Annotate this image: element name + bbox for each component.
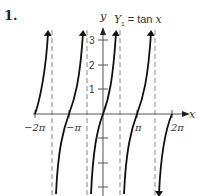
y-axis-label: y	[99, 10, 107, 23]
x-tick-label-pi: π	[134, 122, 142, 133]
y-tick-label-3: 3	[89, 35, 95, 46]
y-tick-label-2: 2	[89, 60, 95, 71]
x-tick-label-neg-pi: −π	[66, 122, 81, 133]
x-tick-label-neg-2pi: −2π	[24, 122, 46, 133]
x-axis-label: x	[189, 108, 196, 121]
function-label: Y1 = tan x	[114, 13, 163, 27]
y-tick-label-1: 1	[89, 84, 95, 95]
branch-1	[35, 33, 48, 114]
x-tick-label-2pi: 2π	[170, 122, 184, 133]
tangent-graph: y Y1 = tan x x 3 2 1 −2π −π π 2π	[0, 0, 197, 196]
